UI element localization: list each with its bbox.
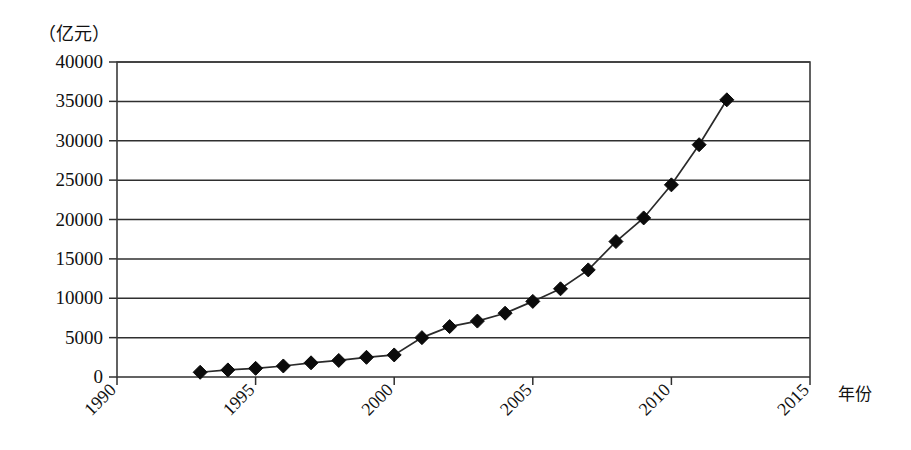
y-tick-label: 35000 [56, 90, 104, 111]
data-point-marker [276, 359, 290, 373]
data-point-marker [443, 320, 457, 334]
data-point-marker [554, 282, 568, 296]
data-point-marker [720, 93, 734, 107]
data-point-marker [332, 353, 346, 367]
data-point-markers [193, 93, 734, 379]
data-point-marker [359, 350, 373, 364]
grid-lines [117, 62, 810, 377]
y-tick-label: 15000 [56, 248, 104, 269]
data-point-marker [221, 363, 235, 377]
y-axis-ticks [109, 62, 117, 377]
y-tick-label: 5000 [65, 327, 103, 348]
data-point-marker [249, 361, 263, 375]
x-tick-label: 2000 [357, 380, 397, 420]
y-tick-label: 30000 [56, 130, 104, 151]
y-tick-label: 25000 [56, 169, 104, 190]
y-tick-label: 10000 [56, 287, 104, 308]
y-tick-label: 40000 [56, 51, 104, 72]
data-point-marker [526, 294, 540, 308]
x-tick-label: 1990 [80, 380, 120, 420]
x-axis-title: 年份 [838, 384, 872, 404]
data-point-marker [470, 314, 484, 328]
data-point-marker [498, 306, 512, 320]
x-axis-tick-labels: 199019952000200520102015 [80, 380, 813, 420]
data-point-marker [387, 348, 401, 362]
data-point-marker [415, 331, 429, 345]
x-tick-label: 2015 [773, 380, 813, 420]
x-tick-label: 2005 [496, 380, 536, 420]
x-axis-ticks [117, 377, 810, 385]
line-chart: 0500010000150002000025000300003500040000… [0, 0, 911, 450]
x-tick-label: 2010 [635, 380, 675, 420]
x-tick-label: 1995 [219, 380, 259, 420]
y-axis-tick-labels: 0500010000150002000025000300003500040000 [56, 51, 104, 387]
data-point-marker [304, 356, 318, 370]
y-axis-unit-label: （亿元） [38, 23, 110, 44]
chart-canvas: 0500010000150002000025000300003500040000… [0, 0, 911, 450]
y-tick-label: 20000 [56, 209, 104, 230]
data-point-marker [692, 138, 706, 152]
